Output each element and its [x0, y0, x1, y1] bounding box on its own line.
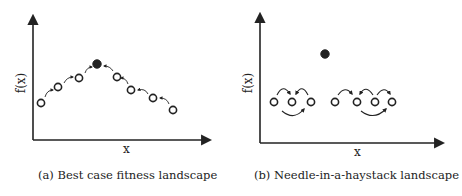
solution-point	[353, 98, 360, 105]
solution-point	[288, 98, 295, 105]
panel-b-x-label: x	[354, 145, 361, 159]
solution-point	[75, 74, 82, 81]
solution-point	[113, 73, 120, 80]
panel-b-axes	[260, 14, 443, 143]
panel-b-y-label: f(x)	[241, 73, 255, 94]
solution-point	[307, 98, 314, 105]
figure-canvas	[0, 0, 462, 196]
solution-point	[388, 98, 395, 105]
solution-point	[371, 98, 378, 105]
solution-point	[54, 83, 61, 90]
solution-point	[127, 86, 134, 93]
optimum-point	[93, 60, 101, 68]
solution-point	[169, 106, 176, 113]
solution-point	[331, 98, 338, 105]
panel-a-x-label: x	[123, 142, 130, 156]
optimum-point	[321, 50, 329, 58]
panel-b-caption: (b) Needle-in-a-haystack landscape	[254, 168, 459, 182]
solution-point	[149, 94, 156, 101]
points-layer	[37, 50, 395, 114]
solution-point	[37, 99, 44, 106]
panel-a-caption: (a) Best case fitness landscape	[38, 168, 217, 182]
panel-a-y-label: f(x)	[14, 73, 28, 94]
solution-point	[270, 98, 277, 105]
